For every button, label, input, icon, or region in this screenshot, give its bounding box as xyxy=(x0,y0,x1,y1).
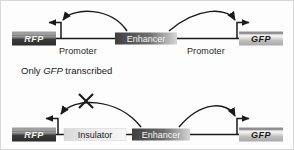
arc-enhancer-to-left-promoter-top xyxy=(63,11,127,31)
arc-enhancer-to-left-promoter-bottom xyxy=(61,103,141,127)
enhancer-label-bottom: Enhancer xyxy=(132,130,190,140)
enhancer-label-top: Enhancer xyxy=(115,34,177,44)
arc-enhancer-to-right-promoter-top xyxy=(169,11,235,31)
insulator-label-bottom: Insulator xyxy=(64,130,126,140)
gene-label-gfp-top: GFP xyxy=(239,34,283,44)
x-mark-icon xyxy=(79,94,93,108)
gene-label-rfp-bottom: RFP xyxy=(12,130,56,140)
caption-only-gfp-transcribed: Only GFP transcribed xyxy=(21,65,112,76)
caption-pre: Only xyxy=(21,65,43,76)
arc-enhancer-to-right-promoter-bottom xyxy=(179,106,235,127)
figure-container: RFP GFP Enhancer Promoter Promoter Only … xyxy=(0,0,294,150)
caption-gene-italic: GFP xyxy=(43,65,63,76)
promoter-label-right-top: Promoter xyxy=(187,46,225,56)
promoter-label-left-top: Promoter xyxy=(59,46,97,56)
caption-post: transcribed xyxy=(63,65,113,76)
gene-label-rfp-top: RFP xyxy=(12,34,56,44)
gene-label-gfp-bottom: GFP xyxy=(239,130,283,140)
